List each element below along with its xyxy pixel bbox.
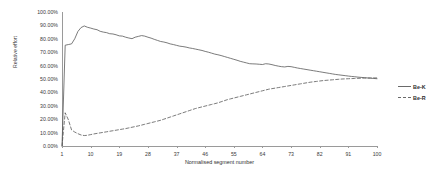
x-axis-tick-label: 19: [116, 151, 122, 157]
x-axis-tick-label: 82: [317, 151, 323, 157]
x-axis-tick-label: 1: [61, 151, 64, 157]
legend-line-swatch-icon: [398, 95, 411, 100]
x-axis-tick-mark: [148, 146, 149, 148]
x-axis-tick-label: 100: [373, 151, 382, 157]
y-axis-tick-label: 90.00%: [40, 22, 58, 28]
x-axis-tick-mark: [348, 146, 349, 148]
legend-item-label: Be-R: [413, 95, 426, 101]
y-axis-tick-label: 20.00%: [40, 116, 58, 122]
plot-area: [62, 12, 377, 146]
legend-item-label: Be-K: [413, 84, 426, 90]
y-axis-tick-label: 40.00%: [40, 89, 58, 95]
x-axis-tick-mark: [262, 146, 263, 148]
y-axis-tick-label: 100.00%: [37, 9, 58, 15]
x-axis-tick-label: 73: [288, 151, 294, 157]
x-axis-tick-label: 46: [202, 151, 208, 157]
series-line-be-r: [62, 78, 377, 146]
x-axis-tick-label: 91: [345, 151, 351, 157]
legend-item-be-k[interactable]: Be-K: [398, 81, 446, 92]
plot-svg: [62, 12, 377, 146]
legend-item-be-r[interactable]: Be-R: [398, 92, 446, 103]
y-axis-tick-label: 80.00%: [40, 36, 58, 42]
x-axis-tick-mark: [177, 146, 178, 148]
x-axis-tick-mark: [91, 146, 92, 148]
x-axis-tick-mark: [62, 146, 63, 148]
series-line-be-k: [62, 26, 377, 146]
y-axis-tick-labels: 100.00%90.00%80.00%70.00%60.00%50.00%40.…: [22, 0, 58, 177]
y-axis-tick-label: 0.00%: [43, 143, 58, 149]
y-axis-tick-label: 30.00%: [40, 103, 58, 109]
x-axis-tick-mark: [320, 146, 321, 148]
y-axis-tick-label: 50.00%: [40, 76, 58, 82]
x-axis-tick-mark: [205, 146, 206, 148]
x-axis-tick-label: 55: [231, 151, 237, 157]
x-axis-title: Normalised segment number: [62, 159, 377, 165]
y-axis-tick-label: 10.00%: [40, 130, 58, 136]
chart-legend: Be-KBe-R: [398, 81, 446, 103]
x-axis-tick-label: 28: [145, 151, 151, 157]
x-axis-tick-label: 64: [260, 151, 266, 157]
y-axis-title: Relative effort: [12, 20, 18, 84]
y-axis-tick-label: 60.00%: [40, 63, 58, 69]
y-axis-tick-label: 70.00%: [40, 49, 58, 55]
x-axis-tick-mark: [234, 146, 235, 148]
x-axis-tick-mark: [291, 146, 292, 148]
line-chart: Relative effort 100.00%90.00%80.00%70.00…: [0, 0, 448, 177]
x-axis-tick-mark: [119, 146, 120, 148]
x-axis-tick-label: 10: [88, 151, 94, 157]
x-axis-tick-label: 37: [174, 151, 180, 157]
legend-line-swatch-icon: [398, 84, 411, 89]
x-axis-tick-labels: 110192837465564738291100: [62, 146, 377, 160]
x-axis-tick-mark: [377, 146, 378, 148]
